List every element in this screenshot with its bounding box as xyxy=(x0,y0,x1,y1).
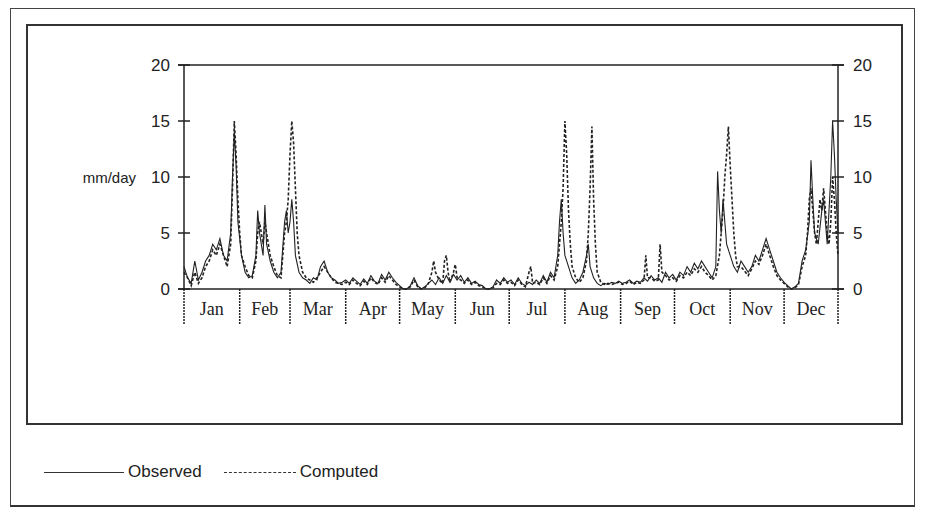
left-tick-label: 20 xyxy=(151,56,170,75)
legend-item-observed: Observed xyxy=(44,462,202,482)
right-tick-label: 15 xyxy=(853,112,872,131)
left-tick-label: 0 xyxy=(161,280,170,299)
month-label-aug: Aug xyxy=(577,299,608,319)
month-label-apr: Apr xyxy=(359,299,387,319)
month-label-mar: Mar xyxy=(303,299,333,319)
month-label-jun: Jun xyxy=(470,299,495,319)
legend-label-computed: Computed xyxy=(300,462,378,482)
right-tick-label: 20 xyxy=(853,56,872,75)
month-label-jan: Jan xyxy=(200,299,224,319)
legend-item-computed: Computed xyxy=(210,462,378,482)
left-tick-label: 15 xyxy=(151,112,170,131)
right-tick-label: 10 xyxy=(853,168,872,187)
month-label-feb: Feb xyxy=(251,299,278,319)
right-tick-label: 5 xyxy=(853,224,862,243)
left-tick-label: 5 xyxy=(161,224,170,243)
month-label-jul: Jul xyxy=(527,299,548,319)
solid-line-swatch-icon xyxy=(44,472,124,473)
month-label-oct: Oct xyxy=(689,299,715,319)
left-tick-label: 10 xyxy=(151,168,170,187)
y-axis-title: mm/day xyxy=(83,169,137,186)
right-tick-label: 0 xyxy=(853,280,862,299)
month-label-sep: Sep xyxy=(634,299,661,319)
legend: Observed Computed xyxy=(44,460,378,484)
dashed-line-swatch-icon xyxy=(224,472,296,473)
legend-label-observed: Observed xyxy=(128,462,202,482)
month-label-may: May xyxy=(411,299,444,319)
hydrograph-chart: 0510152005101520JanFebMarAprMayJunJulAug… xyxy=(0,0,925,519)
series-layer xyxy=(184,121,838,289)
month-label-dec: Dec xyxy=(797,299,826,319)
month-label-nov: Nov xyxy=(742,299,773,319)
axes-layer: 0510152005101520JanFebMarAprMayJunJulAug… xyxy=(151,56,872,325)
